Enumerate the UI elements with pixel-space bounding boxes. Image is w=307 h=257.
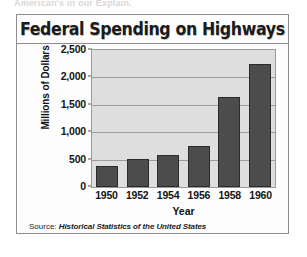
bar <box>157 155 179 187</box>
x-axis-title: Year <box>91 205 276 217</box>
x-axis-tick-label: 1954 <box>157 189 180 201</box>
source-text: Historical Statistics of the United Stat… <box>59 222 206 231</box>
x-axis-tick-label: 1958 <box>218 189 241 201</box>
source-note: Source: Historical Statistics of the Uni… <box>29 222 206 231</box>
y-axis-tick-label: 500 <box>69 153 86 165</box>
y-axis-tick-label: 1,000 <box>61 125 86 137</box>
x-axis-tick-label: 1960 <box>249 189 272 201</box>
x-axis-tick-label: 1956 <box>188 189 211 201</box>
y-axis-tick-label: 2,500 <box>61 43 86 55</box>
bar-series <box>92 50 275 187</box>
chart-title-band: Federal Spending on Highways <box>17 15 288 44</box>
chart-figure: Federal Spending on Highways Millions of… <box>16 14 289 234</box>
chart-body: Millions of Dollars 05001,0001,5002,0002… <box>17 44 290 234</box>
chart-title: Federal Spending on Highways <box>20 19 285 39</box>
x-axis-tick-label: 1950 <box>95 189 118 201</box>
chart-page: American's in our Explain. Federal Spend… <box>0 0 307 257</box>
y-axis-tick-label: 0 <box>80 180 86 192</box>
bar <box>249 64 271 187</box>
y-axis-tick-label: 1,500 <box>61 98 86 110</box>
bar <box>188 146 210 187</box>
bar <box>218 97 240 187</box>
x-axis-tick-labels: 195019521954195619581960 <box>91 189 276 201</box>
source-label: Source: <box>29 222 57 231</box>
y-axis-tick-labels: 05001,0001,5002,0002,500 <box>45 44 89 204</box>
x-axis-tick-label: 1952 <box>126 189 149 201</box>
bar <box>127 159 149 187</box>
bar <box>96 166 118 187</box>
page-top-text-fragment: American's in our Explain. <box>14 0 224 10</box>
plot-area <box>91 49 276 188</box>
y-axis-tick-label: 2,000 <box>61 70 86 82</box>
